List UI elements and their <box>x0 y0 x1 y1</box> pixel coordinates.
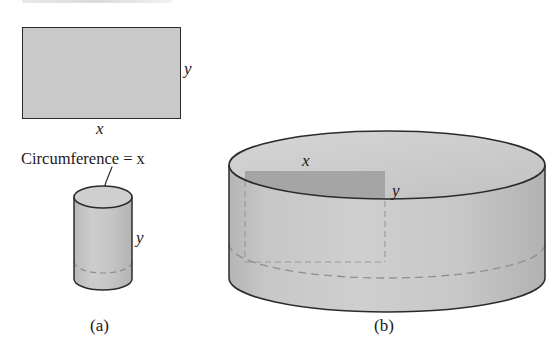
figure-vector-overlay <box>0 0 554 358</box>
small-cylinder-body <box>74 197 132 290</box>
big-cylinder-height-label-y: y <box>392 182 400 199</box>
caption-a: (a) <box>90 317 109 334</box>
small-cylinder-height-label-y: y <box>136 229 144 246</box>
tall-narrow-cylinder <box>74 186 132 290</box>
caption-b: (b) <box>374 317 394 334</box>
short-wide-cylinder <box>229 131 545 312</box>
figure-container: y x Circumference = x <box>0 0 554 358</box>
small-cylinder-top-ellipse <box>74 186 132 208</box>
big-cylinder-arc-label-x: x <box>302 152 310 169</box>
